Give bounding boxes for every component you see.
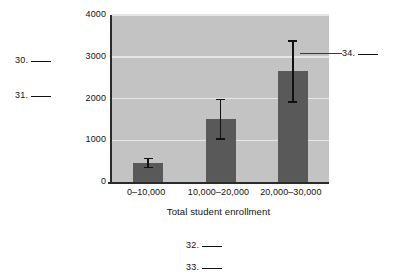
error-bar-cap-bottom [216,138,225,140]
annotation-34-number: 34. [342,48,355,58]
plot-area [110,15,329,182]
annotation-31-blank[interactable] [31,88,51,97]
annotation-34: 34. [342,46,378,58]
error-bar-1 [142,158,154,168]
y-tick-label: 1000 [72,134,106,144]
x-axis-line [108,182,329,184]
error-bar-cap-bottom [144,167,153,169]
y-tick-label: 0 [72,176,106,186]
x-tick-label: 20,000–30,000 [246,187,336,197]
y-tick-label: 3000 [72,51,106,61]
error-bar-cap-top [144,158,153,160]
annotation-34-leader-line [300,53,342,54]
annotation-33-number: 33. [186,262,199,272]
error-bar-cap-bottom [288,101,297,103]
y-tick-label: 2000 [72,93,106,103]
annotation-30-blank[interactable] [31,53,51,62]
y-tick-label: 4000 [72,9,106,19]
annotation-32-blank[interactable] [202,238,222,247]
annotation-30: 30. [15,53,51,65]
y-axis-ticks: 01000200030004000 [66,0,106,280]
x-axis-label: Total student enrollment [110,206,327,217]
error-bar-stem [220,99,222,140]
error-bar-cap-top [288,40,297,42]
annotation-32-number: 32. [186,240,199,250]
annotation-31: 31. [15,88,51,100]
gridline-4000 [112,14,329,16]
figure-container: Freshman enrollment 01000200030004000 0–… [0,0,395,280]
annotation-33: 33. [186,260,222,272]
error-bar-2 [215,99,227,140]
error-bar-stem [292,40,294,103]
annotation-34-blank[interactable] [358,46,378,55]
annotation-31-number: 31. [15,90,28,100]
annotation-30-number: 30. [15,55,28,65]
error-bar-3 [287,40,299,103]
annotation-32: 32. [186,238,222,250]
error-bar-cap-top [216,99,225,101]
annotation-33-blank[interactable] [202,260,222,269]
